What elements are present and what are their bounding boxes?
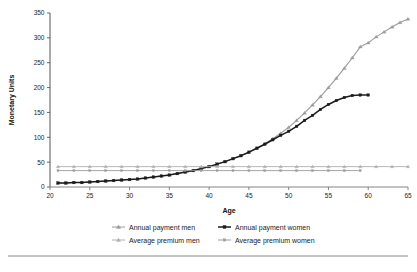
legend-item[interactable]: Annual payment women — [218, 224, 310, 232]
data-point-marker — [152, 170, 154, 172]
series-4 — [57, 170, 361, 172]
line-chart: 0501001502002503003502025303540455055606… — [0, 0, 417, 272]
data-point-marker — [264, 143, 267, 146]
y-tick-label: 200 — [34, 84, 45, 91]
x-tick-label: 50 — [285, 192, 293, 199]
data-point-marker — [96, 180, 99, 183]
data-point-marker — [73, 181, 76, 184]
y-tick-label: 350 — [34, 9, 45, 16]
data-point-marker — [88, 181, 91, 184]
data-point-marker — [311, 114, 314, 117]
x-tick-label: 45 — [245, 192, 253, 199]
data-point-marker — [248, 170, 250, 172]
data-point-marker — [232, 170, 234, 172]
data-point-marker — [327, 170, 329, 172]
y-tick-label: 150 — [34, 109, 45, 116]
legend-item[interactable]: Average premium men — [112, 237, 200, 245]
data-point-marker — [152, 176, 155, 179]
series-3 — [56, 165, 410, 168]
y-tick-label: 0 — [41, 183, 45, 190]
x-tick-label: 25 — [86, 192, 94, 199]
legend-item-label: Average premium women — [235, 237, 315, 245]
data-point-marker — [271, 138, 274, 141]
y-tick-label: 100 — [34, 134, 45, 141]
data-point-marker — [137, 170, 139, 172]
data-point-marker — [223, 239, 225, 241]
chart-legend: Annual payment menAnnual payment womenAv… — [112, 224, 315, 245]
data-point-marker — [319, 108, 322, 111]
data-point-marker — [168, 170, 170, 172]
chart-figure: 0501001502002503003502025303540455055606… — [0, 0, 417, 272]
data-point-marker — [184, 170, 186, 172]
data-point-marker — [144, 177, 147, 180]
data-point-marker — [168, 174, 171, 177]
y-axis-title: Monetary Units — [8, 75, 16, 126]
data-point-marker — [256, 147, 259, 150]
data-point-marker — [120, 179, 123, 182]
y-tick-label: 50 — [37, 159, 45, 166]
data-point-marker — [279, 134, 282, 137]
data-point-marker — [295, 125, 298, 128]
data-point-marker — [121, 170, 123, 172]
data-point-marker — [303, 119, 306, 122]
legend-item[interactable]: Average premium women — [218, 237, 315, 245]
x-tick-label: 20 — [46, 192, 54, 199]
data-point-marker — [223, 226, 226, 229]
x-tick-label: 40 — [205, 192, 213, 199]
data-point-marker — [136, 178, 139, 181]
data-point-marker — [327, 103, 330, 106]
data-point-marker — [335, 99, 338, 102]
data-point-marker — [224, 160, 227, 163]
legend-item[interactable]: Annual payment men — [112, 224, 195, 232]
data-point-marker — [89, 170, 91, 172]
data-point-marker — [351, 94, 354, 97]
data-point-marker — [81, 181, 84, 184]
legend-item-label: Annual payment women — [235, 224, 310, 232]
data-point-marker — [359, 170, 361, 172]
data-point-marker — [406, 17, 410, 20]
data-point-marker — [57, 170, 59, 172]
data-point-marker — [248, 151, 251, 154]
legend-swatch-marker — [223, 226, 226, 229]
x-tick-label: 65 — [404, 192, 412, 199]
legend-item-label: Average premium men — [129, 237, 200, 245]
data-point-marker — [112, 179, 115, 182]
data-point-marker — [128, 178, 131, 181]
x-tick-label: 30 — [126, 192, 134, 199]
data-point-marker — [200, 170, 202, 172]
data-point-marker — [280, 170, 282, 172]
data-point-marker — [312, 170, 314, 172]
data-point-marker — [232, 157, 235, 160]
data-point-marker — [160, 175, 163, 178]
data-point-marker — [343, 170, 345, 172]
data-point-marker — [105, 170, 107, 172]
data-point-marker — [359, 94, 362, 97]
y-tick-label: 250 — [34, 59, 45, 66]
data-point-marker — [104, 180, 107, 183]
data-point-marker — [343, 96, 346, 99]
x-tick-label: 55 — [325, 192, 333, 199]
legend-item-label: Annual payment men — [129, 224, 195, 232]
data-point-marker — [57, 182, 60, 185]
data-point-marker — [287, 130, 290, 133]
data-point-marker — [65, 182, 68, 185]
x-axis-title: Age — [222, 207, 235, 215]
data-point-marker — [367, 94, 370, 97]
data-point-marker — [176, 172, 179, 175]
legend-swatch-marker — [223, 239, 225, 241]
y-tick-label: 300 — [34, 34, 45, 41]
data-point-marker — [264, 170, 266, 172]
x-tick-label: 35 — [166, 192, 174, 199]
data-point-marker — [240, 154, 243, 157]
data-point-marker — [73, 170, 75, 172]
x-tick-label: 60 — [365, 192, 373, 199]
data-point-marker — [216, 170, 218, 172]
data-point-marker — [296, 170, 298, 172]
